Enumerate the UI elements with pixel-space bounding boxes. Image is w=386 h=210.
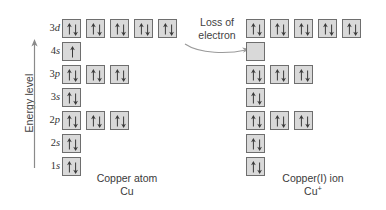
orbital-boxes — [246, 65, 313, 84]
electron-spin-arrows-icon — [63, 135, 82, 154]
orbital-row-left-3s — [62, 87, 81, 107]
orbital-box-paired — [270, 111, 289, 130]
caption-right-charge: + — [318, 184, 322, 193]
orbital-diagram: Energy level 3d 4s 3p 3s 2p 2s 1s Loss o… — [0, 0, 386, 210]
electron-spin-arrows-icon — [63, 89, 82, 108]
electron-spin-arrows-icon — [87, 112, 106, 131]
electron-spin-arrows-icon — [63, 112, 82, 131]
orbital-box-paired — [62, 134, 81, 153]
orbital-row-left-2s — [62, 133, 81, 153]
orbital-box-paired — [86, 111, 105, 130]
orbital-label-3s: 3s — [38, 87, 60, 107]
orbital-row-left-4s — [62, 41, 81, 61]
electron-spin-arrows-icon — [247, 135, 266, 154]
orbital-row-left-3p — [62, 64, 129, 84]
electron-spin-arrows-icon — [271, 20, 290, 39]
electron-spin-arrows-icon — [271, 66, 290, 85]
electron-spin-arrows-icon — [247, 89, 266, 108]
orbital-box-paired — [86, 19, 105, 38]
orbital-box-paired — [110, 65, 129, 84]
electron-spin-arrows-icon — [111, 112, 130, 131]
orbital-label-3d: 3d — [38, 18, 60, 38]
orbital-box-empty — [246, 42, 265, 61]
electron-spin-arrows-icon — [63, 20, 82, 39]
electron-spin-arrows-icon — [159, 20, 178, 39]
orbital-boxes — [246, 111, 313, 130]
orbital-boxes — [62, 42, 81, 61]
orbital-box-paired — [246, 111, 265, 130]
caption-copper-ion: Copper(I) ion Cu+ — [245, 172, 381, 198]
loss-line-2: electron — [198, 29, 235, 41]
orbital-box-paired — [246, 88, 265, 107]
electron-spin-arrows-icon — [87, 66, 106, 85]
loss-of-electron-arrow-icon — [184, 40, 252, 56]
orbital-row-right-2p — [246, 110, 313, 130]
orbital-box-paired — [62, 65, 81, 84]
orbital-box-paired — [246, 134, 265, 153]
orbital-box-paired — [246, 19, 265, 38]
orbital-row-right-3d — [246, 18, 361, 38]
electron-spin-arrows-icon — [319, 20, 338, 39]
electron-spin-arrows-icon — [111, 66, 130, 85]
orbital-label-2p: 2p — [38, 110, 60, 130]
orbital-box-paired — [270, 65, 289, 84]
orbital-row-left-3d — [62, 18, 177, 38]
orbital-row-right-3p — [246, 64, 313, 84]
orbital-box-single-up — [62, 42, 81, 61]
loss-line-1: Loss of — [200, 16, 234, 28]
orbital-row-right-4s — [246, 41, 265, 61]
electron-spin-arrows-icon — [135, 20, 154, 39]
electron-spin-arrows-icon — [111, 20, 130, 39]
orbital-box-paired — [158, 19, 177, 38]
orbital-row-right-2s — [246, 133, 265, 153]
orbital-boxes — [62, 134, 81, 153]
orbital-box-paired — [62, 88, 81, 107]
electron-spin-arrows-icon — [247, 112, 266, 131]
electron-spin-arrows-icon — [63, 66, 82, 85]
caption-left-line1: Copper atom — [97, 172, 158, 184]
orbital-box-paired — [62, 19, 81, 38]
loss-of-electron-label: Loss of electron — [186, 16, 248, 41]
orbital-box-paired — [270, 19, 289, 38]
electron-spin-arrows-icon — [247, 66, 266, 85]
electron-spin-arrows-icon — [87, 20, 106, 39]
orbital-boxes — [246, 88, 265, 107]
orbital-box-paired — [110, 19, 129, 38]
orbital-box-paired — [62, 111, 81, 130]
electron-spin-arrows-icon — [295, 66, 314, 85]
electron-spin-arrows-icon — [271, 112, 290, 131]
orbital-label-2s: 2s — [38, 133, 60, 153]
orbital-label-3p: 3p — [38, 64, 60, 84]
electron-spin-arrows-icon — [295, 20, 314, 39]
electron-spin-arrows-icon — [247, 20, 266, 39]
orbital-row-left-2p — [62, 110, 129, 130]
caption-copper-atom: Copper atom Cu — [62, 172, 192, 198]
caption-right-line2: Cu+ — [245, 185, 381, 198]
orbital-box-paired — [110, 111, 129, 130]
orbital-box-paired — [86, 65, 105, 84]
orbital-box-paired — [246, 65, 265, 84]
orbital-boxes — [246, 42, 265, 61]
orbital-row-right-3s — [246, 87, 265, 107]
orbital-box-paired — [318, 19, 337, 38]
caption-right-line1: Copper(I) ion — [282, 172, 343, 184]
orbital-box-paired — [294, 19, 313, 38]
orbital-boxes — [62, 88, 81, 107]
orbital-boxes — [62, 19, 177, 38]
orbital-box-paired — [294, 65, 313, 84]
electron-spin-arrows-icon — [343, 20, 362, 39]
orbital-boxes — [62, 65, 129, 84]
orbital-boxes — [246, 134, 265, 153]
orbital-label-4s: 4s — [38, 41, 60, 61]
orbital-boxes — [246, 19, 361, 38]
electron-spin-arrows-icon — [295, 112, 314, 131]
orbital-box-paired — [342, 19, 361, 38]
orbital-boxes — [62, 111, 129, 130]
orbital-box-paired — [294, 111, 313, 130]
caption-left-line2: Cu — [62, 185, 192, 198]
orbital-label-1s: 1s — [38, 156, 60, 176]
orbital-box-paired — [134, 19, 153, 38]
electron-spin-arrows-icon — [63, 43, 82, 62]
